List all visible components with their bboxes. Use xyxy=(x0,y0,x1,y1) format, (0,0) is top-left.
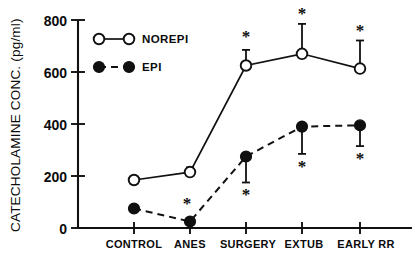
significance-star-norepi-earlyrr: * xyxy=(356,21,365,40)
epi-point-extub xyxy=(297,121,308,132)
y-tick-label-0: 0 xyxy=(59,221,67,237)
y-tick-label-400: 400 xyxy=(44,117,68,133)
legend-norepi-label: NOREPI xyxy=(142,33,189,45)
x-label-surgery: SURGERY xyxy=(220,238,276,250)
legend-item-epi: EPI xyxy=(94,61,162,73)
x-label-control: CONTROL xyxy=(106,238,162,250)
x-label-extub: EXTUB xyxy=(285,238,324,250)
y-tick-label-600: 600 xyxy=(44,65,68,81)
significance-star-norepi-extub: * xyxy=(298,4,307,23)
significance-star-epi-earlyrr: * xyxy=(356,149,365,168)
legend-epi-marker-left xyxy=(94,62,105,73)
epi-series-line xyxy=(134,125,360,221)
legend-epi-label: EPI xyxy=(142,61,162,73)
chart-svg: CATECHOLAMINE CONC. (pg/ml) 800 600 400 … xyxy=(0,0,418,259)
y-tick-label-800: 800 xyxy=(44,13,68,29)
legend-item-norepi: NOREPI xyxy=(94,33,189,45)
significance-star-epi-surgery: * xyxy=(242,185,251,204)
legend-epi-marker-right xyxy=(124,62,135,73)
y-tick-label-200: 200 xyxy=(44,169,68,185)
norepi-point-earlyrr xyxy=(355,63,366,74)
legend: NOREPI EPI xyxy=(94,33,189,73)
significance-star-epi-extub: * xyxy=(298,157,307,176)
catecholamine-line-chart: CATECHOLAMINE CONC. (pg/ml) 800 600 400 … xyxy=(0,0,418,259)
norepi-point-extub xyxy=(297,49,308,60)
epi-point-earlyrr xyxy=(355,120,366,131)
legend-norepi-marker-right xyxy=(124,34,135,45)
epi-point-control xyxy=(129,203,140,214)
y-axis-title: CATECHOLAMINE CONC. (pg/ml) xyxy=(8,18,23,232)
norepi-point-control xyxy=(129,175,140,186)
significance-star-norepi-surgery: * xyxy=(242,27,251,46)
x-label-earlyrr: EARLY RR xyxy=(337,238,394,250)
norepi-point-surgery xyxy=(241,60,252,71)
epi-point-anes xyxy=(185,216,196,227)
norepi-point-anes xyxy=(185,167,196,178)
legend-norepi-marker-left xyxy=(94,34,105,45)
significance-star-epi-anes: * xyxy=(183,194,192,213)
x-label-anes: ANES xyxy=(174,238,206,250)
epi-point-surgery xyxy=(241,151,252,162)
